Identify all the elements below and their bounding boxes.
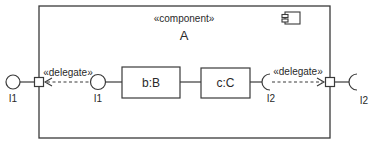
outer-provided-interface-i1 [6, 75, 34, 89]
part-c-label: c:C [217, 76, 235, 90]
inner-lollipop-icon [91, 75, 106, 90]
component-diagram: «component» A I1 «delegate» I1 b:B c:C I… [0, 0, 373, 145]
inner-required-label: I2 [267, 93, 276, 104]
inner-provided-label: I1 [94, 93, 103, 104]
lollipop-icon [6, 75, 20, 89]
part-b-label: b:B [142, 76, 160, 90]
outer-provided-label: I1 [9, 93, 18, 104]
outer-required-label: I2 [360, 95, 369, 106]
component-name: A [180, 28, 189, 43]
outer-socket-icon [349, 74, 357, 90]
right-delegate-label: «delegate» [273, 66, 323, 77]
left-delegate-label: «delegate» [43, 67, 93, 78]
right-port [326, 78, 335, 87]
component-stereotype: «component» [154, 13, 215, 24]
left-port [35, 78, 44, 87]
component-icon [282, 12, 300, 24]
inner-socket-icon [262, 74, 270, 90]
